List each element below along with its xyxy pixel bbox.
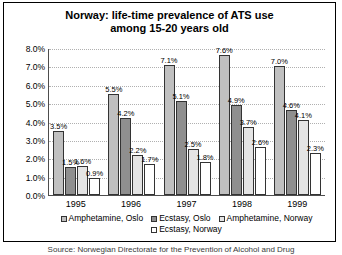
bar-value-label: 2.6%: [252, 139, 269, 147]
source-caption: Source: Norwegian Directorate for the Pr…: [0, 245, 342, 255]
legend-label: Amphetamine, Oslo: [69, 213, 144, 224]
legend-item[interactable]: Amphetamine, Oslo: [61, 213, 144, 224]
bar-groups: 3.5%1.5%1.6%0.9%5.5%4.2%2.2%1.7%7.1%5.1%…: [49, 49, 325, 195]
chart-title: Norway: life-time prevalence of ATS use …: [4, 9, 335, 35]
bar[interactable]: 1.7%: [144, 164, 155, 195]
bar[interactable]: 3.7%: [243, 127, 254, 195]
bar-group: 3.5%1.5%1.6%0.9%: [49, 49, 104, 195]
legend-swatch-icon: [151, 227, 157, 233]
chart-container: Norway: life-time prevalence of ATS use …: [3, 2, 336, 242]
legend-swatch-icon: [219, 216, 225, 222]
bar-value-label: 2.2%: [129, 147, 146, 155]
bar-value-label: 4.2%: [117, 110, 134, 118]
y-axis-tick-label: 7.0%: [26, 62, 45, 72]
legend-label: Amphetamine, Norway: [227, 213, 313, 224]
x-axis-tick-label: 1995: [48, 199, 103, 209]
x-axis-tick-label: 1998: [214, 199, 269, 209]
y-axis-tick-label: 3.0%: [26, 136, 45, 146]
y-axis-tick-label: 6.0%: [26, 81, 45, 91]
bar-group: 7.6%4.9%3.7%2.6%: [215, 49, 270, 195]
y-axis-tick-label: 2.0%: [26, 154, 45, 164]
y-axis-tick-label: 5.0%: [26, 99, 45, 109]
chart-title-line-1: Norway: life-time prevalence of ATS use: [4, 9, 335, 22]
x-axis-tick-label: 1999: [270, 199, 325, 209]
bar[interactable]: 4.2%: [120, 118, 131, 195]
y-axis-tick-label: 4.0%: [26, 118, 45, 128]
bar-value-label: 5.1%: [172, 93, 189, 101]
bar[interactable]: 0.9%: [89, 178, 100, 195]
y-axis-tick-label: 1.0%: [26, 173, 45, 183]
bar[interactable]: 7.6%: [219, 55, 230, 195]
bar-group: 7.0%4.6%4.1%2.3%: [270, 49, 325, 195]
bar-value-label: 1.7%: [141, 156, 158, 164]
bar-value-label: 7.0%: [271, 58, 288, 66]
x-axis-tick-labels: 19951996199719981999: [48, 199, 325, 209]
bar-value-label: 0.9%: [86, 170, 103, 178]
x-axis-tick-label: 1996: [103, 199, 158, 209]
bar[interactable]: 1.8%: [200, 162, 211, 195]
plot-area: 8.0%7.0%6.0%5.0%4.0%3.0%2.0%1.0%0.0% 3.5…: [48, 49, 325, 196]
y-axis-tick-label: 8.0%: [26, 44, 45, 54]
legend-item[interactable]: Ecstasy, Oslo: [151, 213, 210, 224]
chart-title-line-2: among 15-20 years old: [4, 22, 335, 35]
bar[interactable]: 2.3%: [310, 153, 321, 195]
bar-value-label: 4.9%: [228, 97, 245, 105]
legend-item[interactable]: Ecstasy, Norway: [151, 224, 222, 235]
legend-swatch-icon: [61, 216, 67, 222]
bar-value-label: 4.6%: [283, 102, 300, 110]
bar-value-label: 1.8%: [196, 154, 213, 162]
bar-value-label: 3.7%: [240, 119, 257, 127]
bar[interactable]: 4.6%: [286, 110, 297, 195]
bar-value-label: 3.5%: [50, 123, 67, 131]
bar[interactable]: 7.0%: [274, 66, 285, 195]
legend-label: Ecstasy, Oslo: [159, 213, 210, 224]
bar[interactable]: 4.1%: [298, 120, 309, 195]
bar-value-label: 1.6%: [74, 158, 91, 166]
legend-swatch-icon: [151, 216, 157, 222]
bar[interactable]: 1.5%: [65, 167, 76, 195]
bar-group: 5.5%4.2%2.2%1.7%: [104, 49, 159, 195]
bar-value-label: 5.5%: [105, 86, 122, 94]
bar-group: 7.1%5.1%2.5%1.8%: [159, 49, 214, 195]
bar-value-label: 4.1%: [295, 112, 312, 120]
bar[interactable]: 7.1%: [164, 65, 175, 195]
bar-value-label: 2.5%: [184, 141, 201, 149]
legend-item[interactable]: Amphetamine, Norway: [219, 213, 313, 224]
bar-value-label: 7.1%: [160, 57, 177, 65]
y-axis-tick-label: 0.0%: [26, 191, 45, 201]
chart-legend: Amphetamine, OsloEcstasy, OsloAmphetamin…: [48, 213, 325, 235]
x-axis-tick-label: 1997: [159, 199, 214, 209]
bar-value-label: 7.6%: [216, 47, 233, 55]
legend-label: Ecstasy, Norway: [159, 224, 222, 235]
bar[interactable]: 2.6%: [255, 147, 266, 195]
bar-value-label: 2.3%: [307, 145, 324, 153]
